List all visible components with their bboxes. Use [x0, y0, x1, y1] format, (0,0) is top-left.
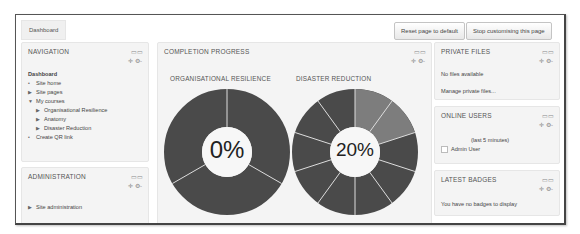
chevron-right-icon: ▶ — [36, 116, 44, 122]
nav-item-create-qr-link[interactable]: •Create QR link — [28, 134, 73, 140]
online-users-title: ONLINE USERS — [441, 112, 492, 119]
chevron-down-icon: ▼ — [28, 98, 36, 104]
reset-page-button[interactable]: Reset page to default — [394, 22, 465, 40]
chevron-right-icon: ▶ — [28, 204, 36, 210]
dock-icon[interactable]: ▭▭ — [542, 48, 553, 55]
nav-item-my-courses[interactable]: ▼My courses — [28, 98, 65, 104]
user-icon — [441, 146, 448, 153]
admin-search-input[interactable] — [37, 223, 124, 225]
breadcrumb-dashboard[interactable]: Dashboard — [21, 20, 66, 40]
move-config-icons[interactable]: ✛ ⚙- — [539, 185, 553, 192]
latest-badges-block: LATEST BADGES ▭▭ ✛ ⚙- You have no badges… — [434, 170, 560, 216]
latest-badges-title: LATEST BADGES — [441, 176, 496, 183]
nav-item-organisational-resilience[interactable]: ▶Organisational Resilience — [36, 107, 107, 113]
move-config-icons[interactable]: ✛ ⚙- — [411, 57, 425, 64]
administration-block: ADMINISTRATION ▭▭ ✛ ⚙- ▶Site administrat… — [21, 167, 149, 225]
chevron-right-icon: ▶ — [36, 107, 44, 113]
dock-icon[interactable]: ▭▭ — [414, 48, 425, 55]
move-config-icons[interactable]: ✛ ⚙- — [539, 57, 553, 64]
private-files-title: PRIVATE FILES — [441, 48, 490, 55]
completion-progress-block: COMPLETION PROGRESS ▭▭ ✛ ⚙- ORGANISATION… — [157, 42, 432, 225]
moodle-dashboard-window: Dashboard Reset page to default Stop cus… — [15, 14, 566, 225]
admin-item-site-administration[interactable]: ▶Site administration — [28, 204, 82, 210]
nav-item-site-home[interactable]: •Site home — [28, 80, 61, 86]
online-user-admin[interactable]: Admin User — [441, 146, 480, 153]
online-users-block: ONLINE USERS ▭▭ ✛ ⚙- (last 5 minutes) Ad… — [434, 106, 560, 164]
percent-disaster-reduction: 20% — [315, 139, 395, 161]
chevron-right-icon: ▶ — [28, 89, 36, 95]
dock-icon[interactable]: ▭▭ — [542, 112, 553, 119]
course-name-organisational-resilience: ORGANISATIONAL RESILIENCE — [170, 75, 271, 82]
move-config-icons[interactable]: ✛ ⚙- — [128, 57, 142, 64]
private-files-block: PRIVATE FILES ▭▭ ✛ ⚙- No files available… — [434, 42, 560, 100]
dock-icon[interactable]: ▭▭ — [542, 176, 553, 183]
bullet-icon: • — [28, 134, 36, 140]
no-badges-text: You have no badges to display — [441, 201, 517, 207]
dock-icon[interactable]: ▭▭ — [131, 173, 142, 180]
course-name-disaster-reduction: DISASTER REDUCTION — [296, 75, 371, 82]
dock-icon[interactable]: ▭▭ — [131, 48, 142, 55]
manage-private-files-link[interactable]: Manage private files... — [441, 88, 496, 94]
move-config-icons[interactable]: ✛ ⚙- — [539, 121, 553, 128]
navigation-title: NAVIGATION — [28, 48, 69, 55]
completion-progress-title: COMPLETION PROGRESS — [164, 48, 249, 55]
percent-organisational-resilience: 0% — [187, 136, 267, 164]
navigation-block: NAVIGATION ▭▭ ✛ ⚙- Dashboard •Site home … — [21, 42, 149, 162]
chevron-right-icon: ▶ — [36, 125, 44, 131]
no-files-text: No files available — [441, 71, 483, 77]
nav-item-dashboard[interactable]: Dashboard — [28, 71, 57, 77]
nav-item-disaster-reduction[interactable]: ▶Disaster Reduction — [36, 125, 91, 131]
stop-customising-button[interactable]: Stop customising this page — [466, 22, 552, 40]
nav-item-anatomy[interactable]: ▶Anatomy — [36, 116, 66, 122]
bullet-icon: • — [28, 80, 36, 86]
administration-title: ADMINISTRATION — [28, 173, 86, 180]
online-period-text: (last 5 minutes) — [471, 137, 509, 143]
move-config-icons[interactable]: ✛ ⚙- — [128, 182, 142, 189]
nav-item-site-pages[interactable]: ▶Site pages — [28, 89, 62, 95]
